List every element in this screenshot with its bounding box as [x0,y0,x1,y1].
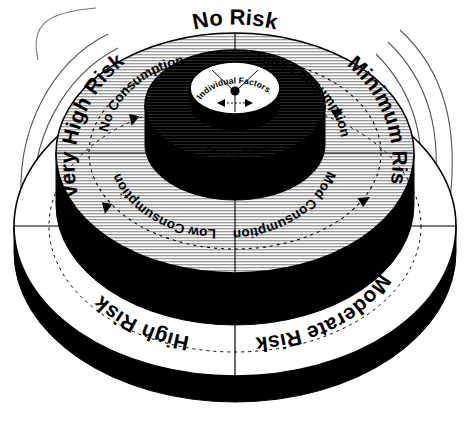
label-no-risk: No Risk [190,5,280,35]
risk-tier-diagram: No Risk Minimum Risk Very High Risk Mode… [0,0,470,435]
diagram-canvas: No Risk Minimum Risk Very High Risk Mode… [0,0,470,435]
center-dot [230,86,239,95]
